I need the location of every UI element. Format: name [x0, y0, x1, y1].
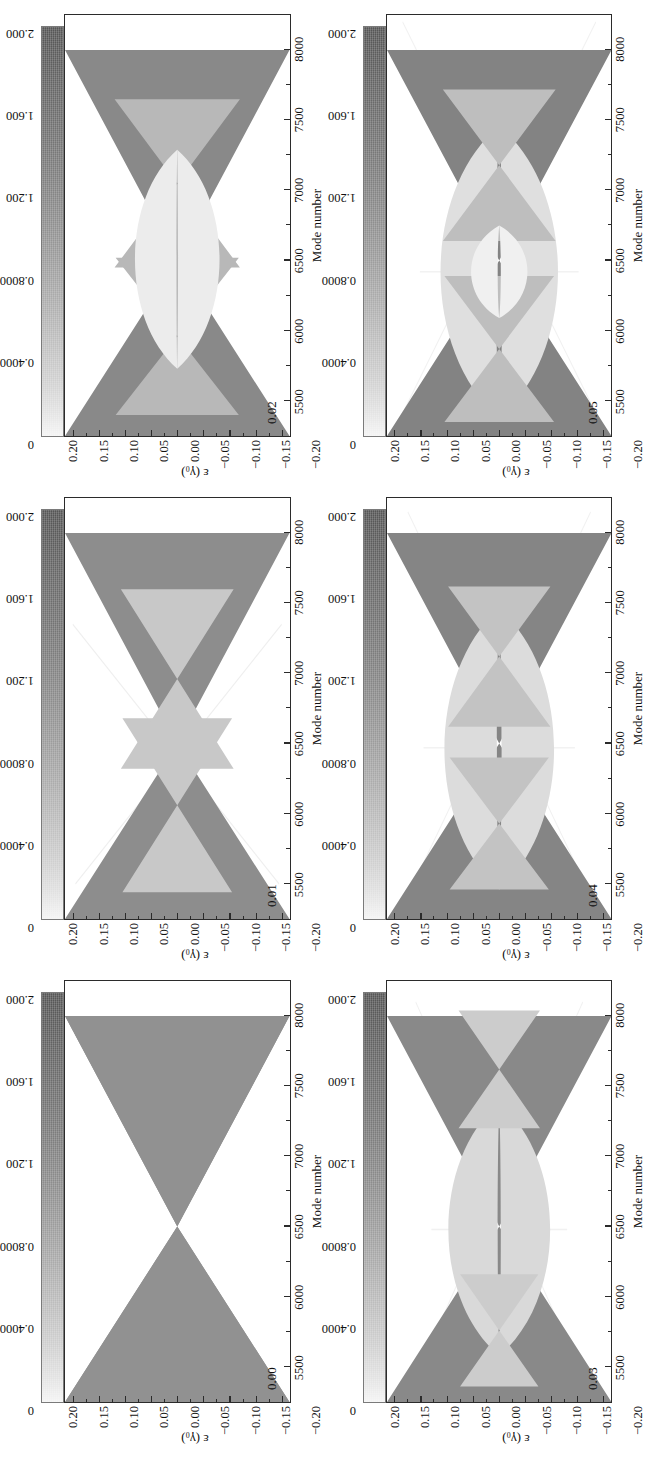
colorbar-tick-labels: 00.40000.80001.2001.6002.000: [332, 509, 362, 920]
x-axis-tick-label: 5500: [292, 389, 307, 414]
y-tick-mark-minor: [460, 1399, 461, 1402]
y-axis-tick-label: 0.15: [418, 923, 433, 945]
plot-main: 0.01550060006500700075008000Mode number: [64, 497, 326, 920]
y-tick-mark: [551, 1396, 552, 1402]
colorbar-tick-label: 1.600: [327, 591, 355, 606]
x-axis-tick-label: 6000: [292, 319, 307, 344]
y-axis-tick-label: 0.05: [157, 440, 172, 462]
x-axis-tick-labels: 550060006500700075008000: [612, 980, 630, 1403]
y-tick-mark-minor: [486, 1399, 487, 1402]
y-tick-mark: [203, 430, 204, 436]
spectrum-plot: [387, 15, 612, 436]
x-tick-mark: [605, 1085, 611, 1086]
y-axis-tick-label: −0.15: [278, 1406, 293, 1435]
x-tick-mark: [605, 400, 611, 401]
y-tick-mark: [603, 913, 604, 919]
y-axis-tick-label: 0.15: [418, 1406, 433, 1428]
x-axis-tick-label: 7500: [292, 107, 307, 132]
y-tick-mark: [99, 430, 100, 436]
colorbar-tick-label: 0: [349, 437, 355, 452]
plot-panel-0.03: 00.40000.80001.2001.6002.000ε (γ₀)0.200.…: [328, 970, 650, 1453]
plot-row: ε (γ₀)0.200.150.100.050.00−0.05−0.10−0.1…: [64, 14, 326, 481]
y-axis-label: ε (γ₀): [502, 948, 530, 964]
x-tick-mark-minor: [608, 1120, 611, 1121]
plot-axes: 0.01: [64, 497, 291, 920]
colorbar-tick-label: 1.600: [327, 108, 355, 123]
y-axis-tick-label: −0.20: [630, 1406, 645, 1435]
x-tick-mark: [284, 602, 290, 603]
plot-axes: 0.00: [64, 980, 291, 1403]
y-axis-tick-label: −0.05: [218, 1406, 233, 1435]
y-axis-tick-label: −0.20: [309, 1406, 324, 1435]
plot-panel-0.01: 00.40000.80001.2001.6002.000ε (γ₀)0.200.…: [6, 487, 328, 970]
y-tick-mark-minor: [138, 916, 139, 919]
y-axis-tick-label: −0.15: [600, 1406, 615, 1435]
plot-panel-0.05: 00.40000.80001.2001.6002.000ε (γ₀)0.200.…: [328, 4, 650, 487]
x-axis-tick-label: 6000: [613, 319, 628, 344]
y-tick-mark: [229, 1396, 230, 1402]
plot-panel-0.02: 00.40000.80001.2001.6002.000ε (γ₀)0.200.…: [6, 4, 328, 487]
x-axis-tick-label: 6500: [613, 731, 628, 756]
y-axis-tick-label: −0.10: [248, 923, 263, 952]
x-axis-tick-label: 5500: [613, 389, 628, 414]
x-tick-mark: [284, 1226, 290, 1227]
y-axis-tick-label: 0.00: [509, 440, 524, 462]
y-tick-mark: [151, 913, 152, 919]
x-tick-mark-minor: [608, 567, 611, 568]
panel-value-label: 0.05: [585, 401, 601, 424]
plot-panel-0.04: 00.40000.80001.2001.6002.000ε (γ₀)0.200.…: [328, 487, 650, 970]
y-axis-tick-labels: 0.200.150.100.050.00−0.05−0.10−0.15−0.20: [386, 920, 648, 948]
y-tick-mark: [73, 430, 74, 436]
y-tick-mark: [551, 913, 552, 919]
y-tick-mark-minor: [538, 1399, 539, 1402]
y-tick-mark: [473, 1396, 474, 1402]
y-axis-tick-label: −0.10: [570, 1406, 585, 1435]
panel-value-label: 0.01: [264, 884, 280, 907]
y-tick-mark-minor: [407, 1399, 408, 1402]
x-axis-tick-label: 6000: [292, 802, 307, 827]
x-axis-tick-labels: 550060006500700075008000: [612, 497, 630, 920]
y-tick-mark-minor: [216, 1399, 217, 1402]
colorbar-tick-label: 0.4000: [321, 1321, 355, 1336]
colorbar-tick-labels: 00.40000.80001.2001.6002.000: [10, 509, 40, 920]
colorbar-tick-label: 0: [349, 920, 355, 935]
y-axis-tick-label: 0.10: [448, 440, 463, 462]
y-tick-mark-minor: [269, 1399, 270, 1402]
y-tick-mark: [499, 913, 500, 919]
plot-axes: 0.05: [386, 14, 613, 437]
x-tick-mark: [284, 532, 290, 533]
plot-axes: 0.02: [64, 14, 291, 437]
y-axis-tick-label: −0.20: [309, 440, 324, 469]
x-tick-mark: [284, 1015, 290, 1016]
x-axis-label: Mode number: [309, 14, 326, 437]
y-axis-tick-label: 0.00: [187, 1406, 202, 1428]
y-tick-mark: [177, 430, 178, 436]
x-axis-tick-label: 5500: [613, 1355, 628, 1380]
y-axis-tick-label: −0.05: [539, 923, 554, 952]
x-tick-mark: [284, 672, 290, 673]
y-axis-tick-label: 0.15: [418, 440, 433, 462]
y-tick-mark: [577, 1396, 578, 1402]
y-tick-mark: [420, 1396, 421, 1402]
y-axis-tick-label: −0.05: [218, 923, 233, 952]
colorbar-group: 00.40000.80001.2001.6002.000: [10, 509, 64, 920]
y-tick-mark-minor: [433, 916, 434, 919]
y-tick-mark: [420, 913, 421, 919]
colorbar: [363, 992, 386, 1403]
y-tick-mark: [151, 1396, 152, 1402]
x-tick-mark: [284, 1085, 290, 1086]
y-axis-label: ε (γ₀): [502, 1431, 530, 1447]
x-axis-tick-labels: 550060006500700075008000: [291, 980, 309, 1403]
x-tick-mark-minor: [286, 778, 289, 779]
x-axis-tick-label: 8000: [613, 520, 628, 545]
y-tick-mark: [577, 430, 578, 436]
y-tick-mark: [447, 1396, 448, 1402]
colorbar-group: 00.40000.80001.2001.6002.000: [332, 26, 386, 437]
y-tick-mark-minor: [216, 916, 217, 919]
x-tick-mark-minor: [608, 1331, 611, 1332]
x-tick-mark-minor: [608, 637, 611, 638]
plot-main: 0.04550060006500700075008000Mode number: [386, 497, 648, 920]
x-axis-tick-label: 8000: [292, 37, 307, 62]
colorbar-group: 00.40000.80001.2001.6002.000: [10, 26, 64, 437]
x-tick-mark-minor: [286, 1120, 289, 1121]
